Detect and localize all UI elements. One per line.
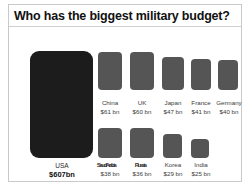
bar-value-china: $61 bn: [92, 108, 128, 116]
bar-value-usa: $607bn: [24, 170, 100, 179]
bar-uk: [130, 52, 154, 90]
bar-label-india: India: [183, 161, 219, 169]
bar-label-russia: Russia: [120, 161, 160, 169]
infographic-root: Who has the biggest military budget? USA…: [0, 0, 250, 195]
title-divider: [9, 26, 241, 27]
bar-label-china: China: [92, 99, 128, 107]
bar-saudi-arabia: [98, 128, 122, 158]
page-title: Who has the biggest military budget?: [14, 9, 234, 23]
bar-germany: [218, 60, 238, 90]
bar-korea: [163, 134, 182, 158]
bar-china: [98, 52, 122, 90]
bar-usa: [30, 51, 93, 158]
bar-value-germany: $40 bn: [210, 108, 248, 116]
bar-value-saudi-arabia: $38 bn: [92, 170, 128, 178]
bar-india: [191, 139, 209, 158]
bar-japan: [162, 57, 184, 90]
bar-label-germany: Germany: [210, 99, 248, 107]
bar-value-india: $25 bn: [183, 170, 219, 178]
bar-france: [191, 59, 211, 90]
bar-russia: [130, 128, 154, 158]
